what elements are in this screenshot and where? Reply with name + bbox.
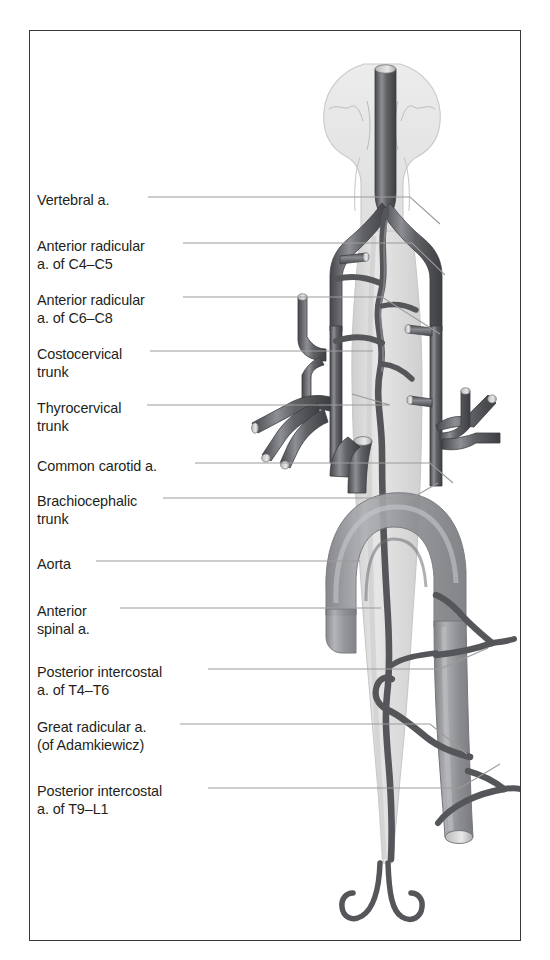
label-costocervical-trunk: Costocervicaltrunk xyxy=(37,346,122,381)
label-line: trunk xyxy=(37,418,121,436)
label-common-carotid-a: Common carotid a. xyxy=(37,458,157,476)
label-vertebral-a: Vertebral a. xyxy=(37,192,109,210)
label-line: Aorta xyxy=(37,556,71,574)
label-line: a. of T4–T6 xyxy=(37,682,162,700)
label-thyrocervical-trunk: Thyrocervicaltrunk xyxy=(37,400,121,435)
label-layer: Vertebral a.Anterior radiculara. of C4–C… xyxy=(30,31,521,941)
label-line: Vertebral a. xyxy=(37,192,109,210)
label-anterior-spinal-a: Anteriorspinal a. xyxy=(37,603,90,638)
label-line: Posterior intercostal xyxy=(37,664,162,682)
label-brachiocephalic-trunk: Brachiocephalictrunk xyxy=(37,493,137,528)
label-line: trunk xyxy=(37,511,137,529)
label-anterior-radicular-c4c5: Anterior radiculara. of C4–C5 xyxy=(37,238,145,273)
label-line: Anterior radicular xyxy=(37,292,145,310)
label-line: trunk xyxy=(37,364,122,382)
label-line: Posterior intercostal xyxy=(37,783,162,801)
label-anterior-radicular-c6c8: Anterior radiculara. of C6–C8 xyxy=(37,292,145,327)
label-line: Anterior radicular xyxy=(37,238,145,256)
label-posterior-intercostal-t9l1: Posterior intercostala. of T9–L1 xyxy=(37,783,162,818)
label-line: Great radicular a. xyxy=(37,719,146,737)
label-aorta: Aorta xyxy=(37,556,71,574)
label-line: Costocervical xyxy=(37,346,122,364)
label-line: Thyrocervical xyxy=(37,400,121,418)
figure-frame: Vertebral a.Anterior radiculara. of C4–C… xyxy=(29,30,521,941)
label-line: a. of C4–C5 xyxy=(37,256,145,274)
label-line: (of Adamkiewicz) xyxy=(37,737,146,755)
label-line: Brachiocephalic xyxy=(37,493,137,511)
label-great-radicular-a: Great radicular a.(of Adamkiewicz) xyxy=(37,719,146,754)
label-line: spinal a. xyxy=(37,621,90,639)
label-line: a. of T9–L1 xyxy=(37,801,162,819)
label-line: Common carotid a. xyxy=(37,458,157,476)
label-line: a. of C6–C8 xyxy=(37,310,145,328)
label-line: Anterior xyxy=(37,603,90,621)
label-posterior-intercostal-t4t6: Posterior intercostala. of T4–T6 xyxy=(37,664,162,699)
